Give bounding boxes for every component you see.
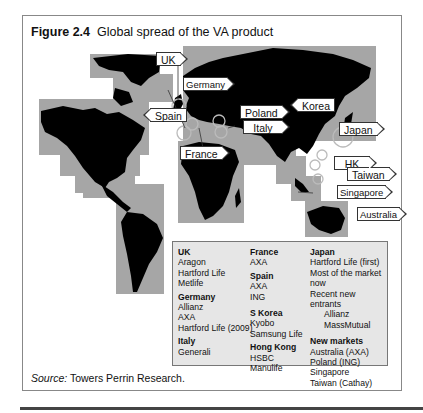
legend-heading-germany: Germany [178, 292, 253, 302]
legend-item: Hartford Life (2009) [178, 323, 253, 333]
callout-spain: Spain [150, 108, 187, 122]
legend-item: Generali [178, 347, 253, 357]
figure-frame: Figure 2.4 Global spread of the VA produ… [22, 15, 402, 391]
legend-item: Allianz [178, 302, 253, 312]
legend-item: HSBC [250, 353, 303, 363]
legend-item: ING [250, 292, 303, 302]
legend-item: AXA [178, 312, 253, 322]
source-text: Towers Perrin Research. [67, 372, 185, 384]
legend-column-3: Japan Hartford Life (first) Most of the … [310, 247, 387, 388]
callout-france: France [180, 146, 223, 160]
legend-heading-spain: Spain [250, 271, 303, 281]
legend-item: Taiwan (Cathay) [310, 378, 387, 388]
legend-item: Metlife [178, 278, 253, 288]
page-rule [20, 407, 423, 410]
legend-heading-japan: Japan [310, 247, 387, 257]
legend-item: Hartford Life (first) [310, 257, 387, 267]
legend-item: AXA [250, 281, 303, 291]
callout-singapore: Singapore [337, 185, 386, 199]
legend-item: Manulife [250, 363, 303, 373]
legend-item: Samsung Life [250, 329, 303, 339]
legend-heading-s-korea: S Korea [250, 308, 303, 318]
legend-item: Australia (AXA) [310, 347, 387, 357]
callout-uk: UK [156, 52, 181, 66]
legend-heading-france: France [250, 247, 303, 257]
legend-heading-new-markets: New markets [310, 336, 387, 346]
legend-item: Most of the market now [310, 268, 387, 289]
legend-item: Hartford Life [178, 268, 253, 278]
legend-column-1: UK Aragon Hartford Life Metlife Germany … [178, 247, 253, 357]
callout-australia: Australia [357, 207, 400, 221]
legend-box: UK Aragon Hartford Life Metlife Germany … [172, 241, 388, 366]
callout-poland: Poland [240, 105, 283, 119]
callout-japan: Japan [339, 122, 378, 136]
callout-italy: Italy [243, 120, 283, 134]
legend-column-2: France AXA Spain AXA ING S Korea Kyobo S… [250, 247, 303, 373]
callout-korea: Korea [297, 98, 335, 112]
legend-sub-item: MassMutual [310, 320, 387, 330]
callout-germany: Germany [183, 77, 228, 91]
legend-item: AXA [250, 257, 303, 267]
legend-item: Poland (ING) [310, 357, 387, 367]
callout-taiwan: Taiwan [347, 167, 390, 181]
legend-item: Singapore [310, 367, 387, 377]
legend-heading-hong-kong: Hong Kong [250, 342, 303, 352]
legend-heading-italy: Italy [178, 336, 253, 346]
source-label: Source: [31, 372, 67, 384]
legend-item: Aragon [178, 257, 253, 267]
legend-item: Recent new entrants [310, 289, 387, 310]
legend-sub-item: Allianz [310, 309, 387, 319]
source-note: Source: Towers Perrin Research. [31, 372, 185, 384]
legend-heading-uk: UK [178, 247, 253, 257]
legend-item: Kyobo [250, 318, 303, 328]
